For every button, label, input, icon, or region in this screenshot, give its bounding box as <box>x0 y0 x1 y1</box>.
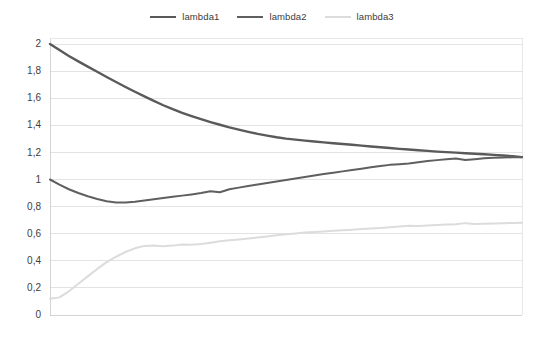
plot-area: 21,81,61,41,210,80,60,40,20 <box>0 0 544 343</box>
plot-frame <box>50 38 522 315</box>
y-tick-label: 1,4 <box>27 119 41 130</box>
y-tick-label: 2 <box>35 38 41 49</box>
y-tick-label: 0,2 <box>27 282 41 293</box>
y-tick-label: 0,6 <box>27 228 41 239</box>
y-tick-label: 0,8 <box>27 201 41 212</box>
y-tick-label: 1 <box>35 174 41 185</box>
y-tick-label: 0,4 <box>27 255 41 266</box>
y-tick-label: 0 <box>35 309 41 320</box>
chart-container: lambda1 lambda2 lambda3 21,81,61,41,210,… <box>0 0 544 343</box>
series-line-lambda1 <box>50 44 522 157</box>
y-tick-label: 1,8 <box>27 65 41 76</box>
y-axis-tick-labels: 21,81,61,41,210,80,60,40,20 <box>27 38 41 320</box>
y-tick-label: 1,6 <box>27 92 41 103</box>
chart-svg: 21,81,61,41,210,80,60,40,20 <box>0 0 544 343</box>
y-tick-label: 1,2 <box>27 147 41 158</box>
